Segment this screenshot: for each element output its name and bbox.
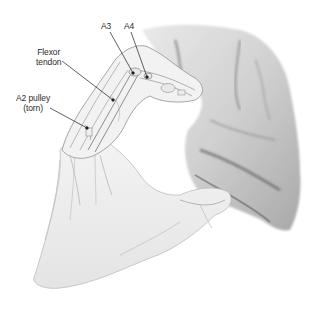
label-flexor-line1: Flexor xyxy=(36,47,61,57)
label-a2-line2: (torn) xyxy=(16,103,50,113)
anatomy-figure: A3 A4 Flexor tendon A2 pulley (torn) xyxy=(0,0,317,310)
label-flexor-line2: tendon xyxy=(36,57,61,67)
label-a4: A4 xyxy=(124,21,134,31)
label-a4-text: A4 xyxy=(124,21,134,31)
label-a3: A3 xyxy=(101,21,111,31)
label-a2-line1: A2 pulley xyxy=(16,93,50,103)
label-a2-pulley: A2 pulley (torn) xyxy=(16,93,50,113)
label-a3-text: A3 xyxy=(101,21,111,31)
label-flexor-tendon: Flexor tendon xyxy=(36,47,61,67)
